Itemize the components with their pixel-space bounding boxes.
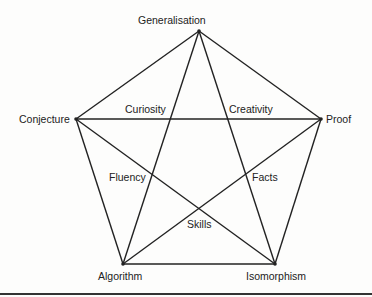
- diagram-edges: [0, 0, 372, 297]
- label-proof: Proof: [326, 113, 351, 125]
- label-curiosity: Curiosity: [125, 103, 166, 115]
- diagram-canvas: GeneralisationConjectureProofAlgorithmIs…: [0, 0, 372, 297]
- label-algorithm: Algorithm: [98, 270, 142, 282]
- label-facts: Facts: [252, 171, 278, 183]
- label-isomorphism: Isomorphism: [246, 270, 306, 282]
- edge-proof-algorithm: [123, 119, 321, 264]
- edge-conjecture-isomorphism: [76, 119, 275, 264]
- vertex-isomorphism: [273, 262, 277, 266]
- label-conjecture: Conjecture: [19, 113, 70, 125]
- bottom-rule: [0, 293, 372, 295]
- vertex-conjecture: [74, 117, 78, 121]
- label-creativity: Creativity: [229, 103, 273, 115]
- label-generalisation: Generalisation: [138, 14, 206, 26]
- vertex-algorithm: [121, 262, 125, 266]
- label-fluency: Fluency: [109, 171, 146, 183]
- edge-proof-isomorphism: [275, 119, 321, 264]
- label-skills: Skills: [187, 218, 212, 230]
- vertex-generalisation: [197, 29, 201, 33]
- edge-conjecture-algorithm: [76, 119, 123, 264]
- vertex-proof: [319, 117, 323, 121]
